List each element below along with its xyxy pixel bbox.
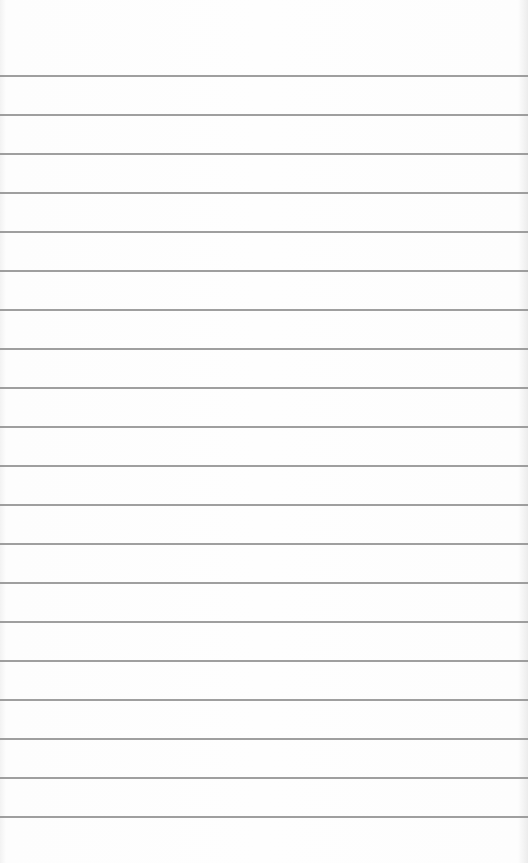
ruled-line — [0, 699, 528, 701]
ruled-line — [0, 504, 528, 506]
ruled-line — [0, 114, 528, 116]
ruled-line — [0, 75, 528, 77]
ruled-line — [0, 387, 528, 389]
ruled-line — [0, 348, 528, 350]
ruled-line — [0, 621, 528, 623]
ruled-line — [0, 231, 528, 233]
ruled-line — [0, 543, 528, 545]
ruled-line — [0, 270, 528, 272]
ruled-line — [0, 309, 528, 311]
ruled-line — [0, 153, 528, 155]
ruled-line — [0, 465, 528, 467]
ruled-line — [0, 192, 528, 194]
lined-paper — [0, 0, 528, 863]
ruled-line — [0, 426, 528, 428]
ruled-line — [0, 816, 528, 818]
ruled-line — [0, 660, 528, 662]
ruled-line — [0, 582, 528, 584]
ruled-line — [0, 738, 528, 740]
ruled-line — [0, 777, 528, 779]
